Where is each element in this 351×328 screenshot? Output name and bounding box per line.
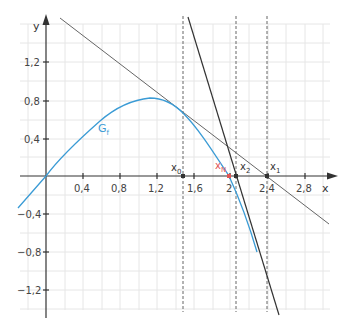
y-tick-label: −0,8 (17, 247, 41, 258)
point-label-xN: xN (215, 160, 226, 174)
y-tick-label: −0,4 (17, 209, 41, 220)
x-tick-label: 0,4 (74, 183, 90, 194)
curve-label: Gf (98, 122, 110, 137)
y-tick-label: 0,8 (24, 96, 40, 107)
y-tick-label: 1,2 (24, 57, 40, 68)
x-tick-label: 2 (226, 183, 232, 194)
point-label-x1: x1 (270, 161, 280, 175)
x-axis-label: x (322, 182, 329, 195)
axes (20, 14, 338, 318)
x-tick-label: 0,8 (111, 183, 127, 194)
x-tick-label: 1,6 (187, 183, 203, 194)
x-tick-label: 2,8 (296, 183, 312, 194)
y-tick-label: 0,4 (24, 134, 40, 145)
x-tick-label: 2,4 (259, 183, 275, 194)
point-label-x0: x0 (171, 162, 181, 176)
dashed-guides (183, 16, 267, 312)
newton-method-diagram: 0,4 0,8 1,2 1,6 2 2,4 2,8 x 1,2 0,8 0,4 … (0, 0, 351, 328)
y-tick-label: −1,2 (17, 285, 41, 296)
function-curve (18, 98, 257, 252)
x-tick-label: 1,2 (148, 183, 164, 194)
y-axis-label: y (33, 20, 40, 33)
